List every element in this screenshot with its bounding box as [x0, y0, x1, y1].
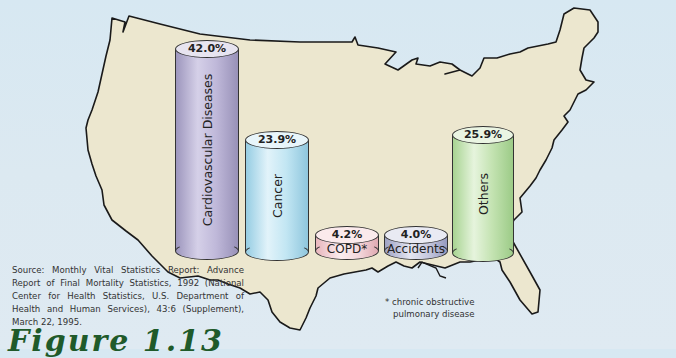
footnote-line-2: pulmonary disease: [385, 308, 475, 320]
bar-value: 42.0%: [175, 42, 239, 55]
bar-copd: 4.2% COPD*: [315, 226, 379, 260]
bar-label: Others: [476, 173, 491, 215]
bar-label: Accidents: [384, 242, 448, 256]
footnote: * chronic obstructive pulmonary disease: [385, 296, 475, 320]
bar-cardiovascular: 42.0% Cardiovascular Diseases: [175, 40, 239, 260]
bar-value: 23.9%: [245, 133, 309, 146]
bar-others: 25.9% Others: [452, 126, 514, 262]
bar-value: 4.2%: [315, 228, 379, 241]
bar-label: COPD*: [315, 242, 379, 256]
source-note: Source: Monthly Vital Statistics Report:…: [12, 264, 244, 329]
bar-value: 4.0%: [384, 228, 448, 241]
bar-cancer: 23.9% Cancer: [245, 131, 309, 261]
footnote-line-1: * chronic obstructive: [385, 296, 475, 308]
bar-accidents: 4.0% Accidents: [384, 226, 448, 260]
bar-label: Cardiovascular Diseases: [200, 74, 215, 227]
bar-value: 25.9%: [452, 128, 514, 141]
bar-label: Cancer: [270, 174, 285, 218]
figure-title: Figure 1.13: [8, 326, 224, 356]
